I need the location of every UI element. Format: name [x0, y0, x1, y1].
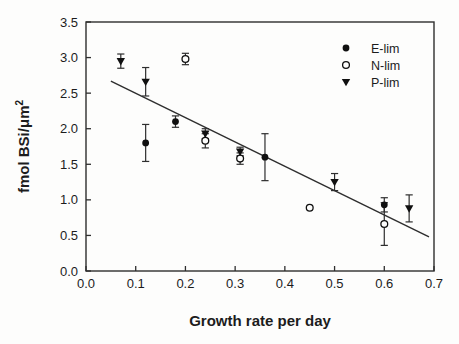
- y-axis-tick-label: 1.5: [60, 157, 78, 172]
- legend-label-n-lim: N-lim: [371, 59, 400, 73]
- data-point-n-lim: [381, 221, 388, 228]
- data-point-p-lim: [330, 179, 338, 186]
- x-axis-tick-label: 0.7: [425, 276, 443, 291]
- legend-label-e-lim: E-lim: [371, 42, 399, 56]
- y-axis-tick-label: 3.0: [60, 50, 78, 65]
- x-axis-title: Growth rate per day: [189, 312, 331, 329]
- data-point-p-lim: [117, 58, 125, 65]
- y-axis-tick-label: 0.5: [60, 228, 78, 243]
- legend-label-p-lim: P-lim: [371, 76, 399, 90]
- y-axis-tick-label: 3.5: [60, 15, 78, 30]
- data-point-n-lim: [202, 137, 209, 144]
- data-point-e-lim: [262, 154, 269, 161]
- legend-marker-n-lim: [343, 62, 350, 69]
- data-point-e-lim: [381, 201, 388, 208]
- x-axis-tick-label: 0.3: [226, 276, 244, 291]
- scatter-plot-figure: 0.00.10.20.30.40.50.60.70.00.51.01.52.02…: [0, 0, 459, 344]
- data-point-n-lim: [237, 155, 244, 162]
- y-axis-tick-label: 2.0: [60, 121, 78, 136]
- x-axis-tick-label: 0.2: [176, 276, 194, 291]
- x-axis-tick-label: 0.5: [326, 276, 344, 291]
- legend-marker-p-lim: [342, 79, 350, 86]
- y-axis-tick-label: 2.5: [60, 86, 78, 101]
- data-point-p-lim: [405, 205, 413, 212]
- data-point-e-lim: [172, 118, 179, 125]
- y-axis-tick-label: 0.0: [60, 264, 78, 279]
- y-axis-tick-label: 1.0: [60, 192, 78, 207]
- x-axis-tick-label: 0.4: [276, 276, 294, 291]
- data-point-n-lim: [306, 204, 313, 211]
- data-point-p-lim: [236, 148, 244, 155]
- data-point-p-lim: [141, 79, 149, 86]
- scatter-plot-canvas: 0.00.10.20.30.40.50.60.70.00.51.01.52.02…: [0, 0, 459, 344]
- y-axis-title: fmol BSi/μm2: [14, 100, 32, 194]
- data-point-n-lim: [182, 56, 189, 63]
- trend-line: [111, 81, 429, 237]
- data-point-e-lim: [142, 140, 149, 147]
- x-axis-tick-label: 0.1: [127, 276, 145, 291]
- x-axis-tick-label: 0.6: [375, 276, 393, 291]
- x-axis-tick-label: 0.0: [77, 276, 95, 291]
- legend-marker-e-lim: [343, 45, 350, 52]
